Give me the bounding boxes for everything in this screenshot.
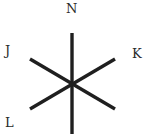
star-lines xyxy=(0,0,147,138)
star-diagram: N J K L xyxy=(0,0,147,138)
label-j: J xyxy=(5,44,10,57)
label-l: L xyxy=(5,116,14,129)
label-k: K xyxy=(132,47,142,60)
label-n: N xyxy=(66,2,77,15)
